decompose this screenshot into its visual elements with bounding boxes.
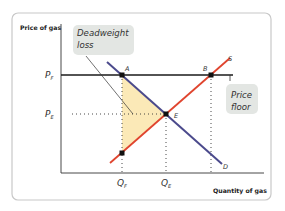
supply-curve-label: S [228,55,232,63]
price-floor-diagram: A B E S D Price of gas Quantity of gas P… [0,0,285,211]
deadweight-loss-callout-line2: loss [77,40,94,50]
point-b-label: B [203,65,208,73]
point-e [164,112,169,117]
point-supply-at-qf [120,151,125,156]
deadweight-loss-callout-line1: Deadweight [77,28,129,38]
demand-curve-label: D [223,163,228,171]
point-a-label: A [124,65,129,73]
y-axis-title: Price of gas [20,24,61,32]
x-axis-title: Quantity of gas [213,187,267,195]
point-b [209,73,214,78]
price-floor-callout-line2: floor [231,102,251,112]
point-a [120,73,125,78]
price-floor-callout-line1: Price [231,90,252,100]
